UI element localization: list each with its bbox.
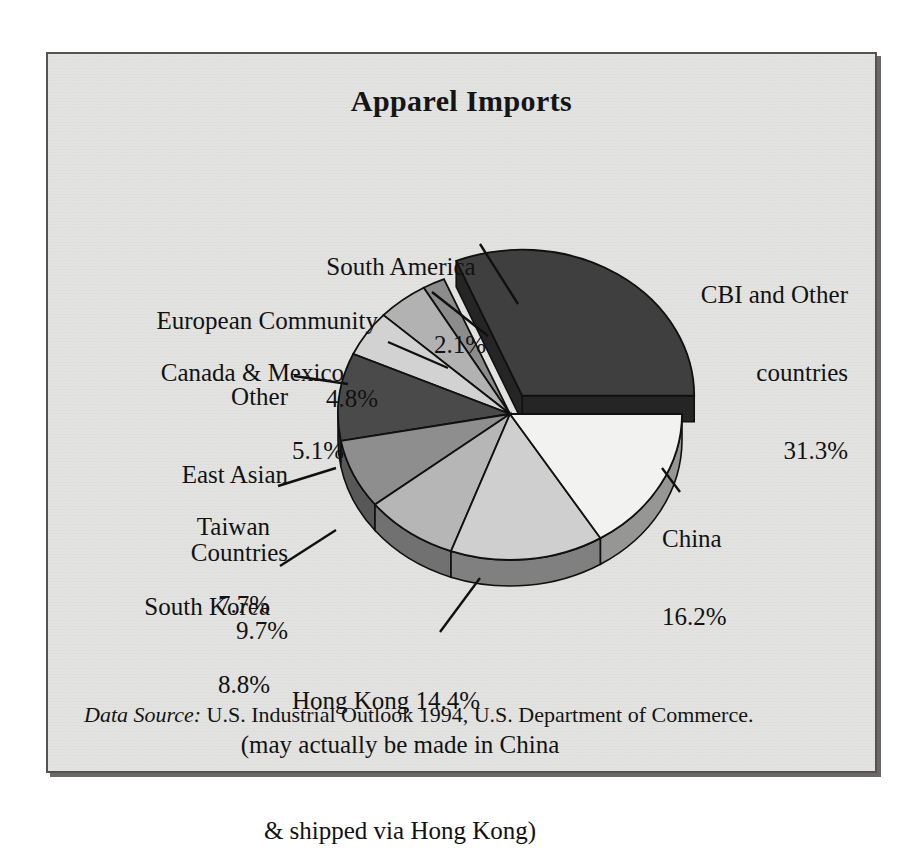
slice-label-cbi: CBI and Other countries 31.3% — [568, 230, 848, 516]
slice-label-taiwan-name: Taiwan — [68, 514, 270, 540]
slice-label-south-korea-name: South Korea — [58, 594, 270, 620]
leader-line-hong-kong — [440, 578, 480, 632]
data-source-prefix: Data Source: — [84, 702, 201, 727]
data-source-text: U.S. Industrial Outlook 1994, U.S. Depar… — [201, 702, 753, 727]
slice-label-cbi-pct: 31.3% — [568, 438, 848, 464]
hong-kong-footnote-line1: (may actually be made in China — [170, 731, 630, 760]
leader-line-south-korea — [280, 530, 336, 566]
slice-label-other-east-asian-line1: Other — [68, 384, 288, 410]
hong-kong-footnote: (may actually be made in China & shipped… — [170, 674, 630, 849]
slice-label-china-pct: 16.2% — [662, 604, 842, 630]
hong-kong-footnote-line2: & shipped via Hong Kong) — [170, 817, 630, 846]
chart-panel: Apparel Imports South America 2.1% Europ… — [46, 52, 877, 773]
data-source: Data Source: U.S. Industrial Outlook 199… — [84, 702, 753, 728]
slice-label-cbi-line1: CBI and Other — [568, 282, 848, 308]
slice-label-cbi-line2: countries — [568, 360, 848, 386]
slice-label-china-name: China — [662, 526, 842, 552]
